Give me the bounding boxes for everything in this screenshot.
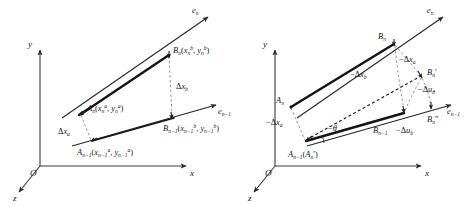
right-y-axis-label: y (262, 39, 268, 49)
left-panel: y x z O en en−1 Bn(xnb, ynb) An(xna, yna… (12, 6, 231, 203)
right-z-axis-label: z (247, 193, 252, 203)
right-e-n-label: en (427, 6, 434, 16)
right-neg-delta-u-theta-label: −Δuθ (418, 85, 435, 95)
right-neg-delta-xa-top-label: −Δxa (399, 55, 416, 65)
left-origin-label: O (30, 168, 37, 178)
figure-canvas: y x z O en en−1 Bn(xnb, ynb) An(xna, yna… (0, 0, 470, 207)
right-origin-label: O (265, 168, 272, 178)
right-segment-an-bn (291, 44, 394, 107)
right-point-anm1-label: An−1(An′) (287, 150, 318, 160)
right-x-axis-label: x (424, 168, 430, 178)
right-neg-delta-xa-left-label: −Δxa (266, 118, 283, 128)
left-x-axis-label: x (189, 168, 195, 178)
right-neg-delta-xa-left-guide (291, 108, 305, 140)
left-delta-xb-guide (169, 56, 172, 117)
left-segment-anm1-bnm1 (92, 118, 174, 141)
left-point-bn-label: Bn(xnb, ynb) (173, 45, 210, 56)
left-z-axis-label: z (12, 193, 17, 203)
right-an-point (290, 106, 293, 109)
right-point-bn-label: Bn (378, 32, 386, 42)
right-neg-theta-label: −θ (328, 124, 337, 133)
left-e-n-label: en (192, 6, 199, 16)
right-panel: y x z O en en−1 Bn An Bn′ Bn″ Bn−1 An−1(… (247, 6, 460, 203)
left-point-an-label: An(xna, yna) (86, 103, 124, 114)
beam-element-kinematics-figure: y x z O en en−1 Bn(xnb, ynb) An(xna, yna… (0, 0, 470, 207)
left-point-anm1-label: An−1(xn−1a, yn−1a) (76, 147, 133, 158)
right-point-an-label: An (275, 96, 284, 106)
left-e-n-axis (62, 17, 208, 118)
left-y-axis-label: y (27, 39, 33, 49)
right-e-n-minus-1-label: en−1 (447, 107, 460, 117)
right-point-bn-prime-label: Bn′ (427, 68, 437, 78)
left-e-n-minus-1-label: en−1 (218, 107, 231, 117)
right-point-bnm1-label: Bn−1 (373, 126, 388, 136)
right-neg-delta-u-b-label: −Δub (396, 126, 413, 136)
right-e-n-axis (297, 17, 443, 118)
left-delta-xa-label: Δxa (58, 127, 70, 137)
left-delta-xa-guide (81, 115, 91, 140)
left-point-bnm1-label: Bn−1(xn−1b, yn−1b) (163, 123, 219, 134)
right-segment-anm1-bnm1 (306, 113, 404, 141)
left-delta-xb-label: Δxb (176, 82, 188, 92)
right-bnm1-marker (403, 106, 404, 113)
right-point-bn-double-prime-label: Bn″ (427, 115, 439, 125)
